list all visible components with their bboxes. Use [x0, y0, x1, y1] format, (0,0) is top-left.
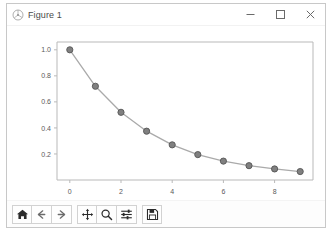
window-controls [235, 4, 325, 25]
minimize-button[interactable] [235, 4, 265, 25]
data-point-marker [246, 163, 252, 169]
window-title: Figure 1 [28, 10, 62, 20]
plot-area: 024680.20.40.60.81.0 [7, 26, 325, 200]
maximize-button[interactable] [265, 4, 295, 25]
home-button[interactable] [12, 205, 32, 224]
x-tick-label: 2 [119, 188, 123, 195]
data-point-marker [272, 166, 278, 172]
arrow-right-icon [55, 208, 68, 221]
y-tick-label: 0.4 [41, 125, 51, 132]
maximize-icon [275, 9, 286, 20]
data-point-marker [195, 152, 201, 158]
x-tick-label: 4 [170, 188, 174, 195]
close-button[interactable] [295, 4, 325, 25]
data-point-marker [169, 142, 175, 148]
pan-button[interactable] [77, 205, 97, 224]
data-point-marker [67, 47, 73, 53]
matplotlib-icon [12, 9, 24, 21]
x-tick-label: 6 [221, 188, 225, 195]
series-line [70, 50, 300, 172]
configure-subplots-button[interactable] [117, 205, 137, 224]
figure-canvas[interactable]: 024680.20.40.60.81.0 [7, 26, 325, 200]
data-point-marker [144, 128, 150, 134]
window-titlebar[interactable]: Figure 1 [7, 4, 325, 26]
navigation-toolbar [7, 200, 325, 227]
y-tick-label: 0.8 [41, 72, 51, 79]
x-tick-label: 0 [68, 188, 72, 195]
arrow-left-icon [35, 208, 48, 221]
data-point-marker [297, 168, 303, 174]
zoom-button[interactable] [97, 205, 117, 224]
magnifier-icon [100, 208, 113, 221]
back-button[interactable] [32, 205, 52, 224]
data-point-marker [220, 158, 226, 164]
y-tick-label: 0.6 [41, 98, 51, 105]
data-point-marker [92, 83, 98, 89]
figure-window: Figure 1 024680.20.40.60.81.0 [6, 3, 326, 228]
home-icon [16, 208, 29, 221]
data-point-marker [118, 109, 124, 115]
floppy-disk-icon [146, 208, 159, 221]
minimize-icon [245, 9, 256, 20]
close-icon [305, 9, 316, 20]
y-tick-label: 0.2 [41, 151, 51, 158]
pan-move-icon [81, 208, 94, 221]
x-tick-label: 8 [273, 188, 277, 195]
forward-button[interactable] [52, 205, 72, 224]
save-button[interactable] [142, 205, 162, 224]
y-tick-label: 1.0 [41, 46, 51, 53]
sliders-icon [120, 208, 133, 221]
